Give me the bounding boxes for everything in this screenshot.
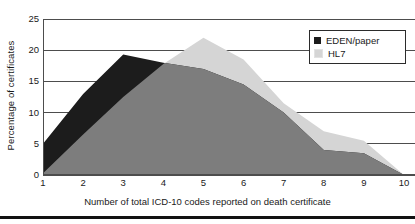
legend-item-0: EDEN/paper [314,34,401,47]
legend-label-eden-paper: EDEN/paper [326,35,379,46]
y-axis-title: Percentage of certificates [0,0,22,190]
x-tick-label-5: 5 [192,178,214,188]
x-tick-label-6: 6 [233,178,255,188]
chart-figure: Percentage of certificates 0510152025 12… [0,0,415,224]
x-tick-label-8: 8 [313,178,335,188]
x-tick-label-7: 7 [273,178,295,188]
bottom-divider [0,216,415,219]
x-axis-title: Number of total ICD-10 codes reported on… [0,196,415,207]
x-tick-label-2: 2 [72,178,94,188]
legend-label-hl7: HL7 [328,48,345,59]
legend-item-1: HL7 [314,47,401,60]
legend-swatch-eden-paper [314,37,321,44]
x-tick-label-9: 9 [353,178,375,188]
legend-swatch-hl7 [314,49,323,58]
chart-legend: EDEN/paper HL7 [309,30,406,64]
y-axis-title-text: Percentage of certificates [6,40,17,150]
x-tick-label-4: 4 [152,178,174,188]
x-tick-label-1: 1 [32,178,54,188]
x-tick-label-10: 10 [393,178,415,188]
x-tick-label-3: 3 [112,178,134,188]
x-axis-title-text: Number of total ICD-10 codes reported on… [84,196,331,207]
